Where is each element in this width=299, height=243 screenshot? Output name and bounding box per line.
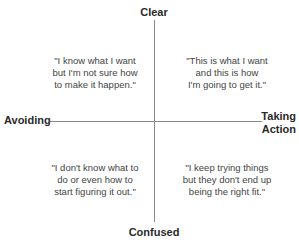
quote-line: being the right fit." [172,186,282,198]
axis-label-avoiding: Avoiding [4,114,51,127]
quote-line: "I don't know what to [40,162,150,174]
quote-line: but I'm not sure how [40,67,150,79]
quote-line: I'm going to get it." [172,79,282,91]
quote-line: to make it happen." [40,79,150,91]
axis-label-confused: Confused [114,226,194,239]
quote-line: start figuring it out." [40,186,150,198]
axis-label-clear: Clear [124,6,184,19]
quote-line: "I keep trying things [172,162,282,174]
axis-label-action: Action [261,123,296,136]
axis-label-taking-action: Taking Action [261,110,296,136]
quote-line: "This is what I want [172,55,282,67]
quote-line: do or even how to [40,174,150,186]
quote-top-right: "This is what I want and this is how I'm… [172,55,282,91]
quote-bottom-right: "I keep trying things but they don't end… [172,162,282,198]
quote-line: but they don't end up [172,174,282,186]
quote-top-left: "I know what I want but I'm not sure how… [40,55,150,91]
horizontal-axis-line [49,121,262,122]
axis-label-taking: Taking [261,110,296,123]
quote-bottom-left: "I don't know what to do or even how to … [40,162,150,198]
quote-line: "I know what I want [40,55,150,67]
quote-line: and this is how [172,67,282,79]
